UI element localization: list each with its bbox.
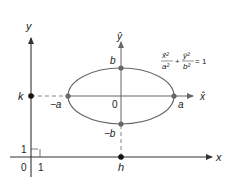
origin-label: 0	[21, 162, 27, 173]
unit-x-label: 1	[38, 162, 44, 173]
ellipse-diagram: y x x̂ ŷ 0 1 1 k h −a a b −b 0 x̂² a² + …	[0, 0, 225, 177]
a-label: a	[178, 99, 184, 110]
neg-a-label: −a	[50, 99, 62, 110]
equation-term2-denominator: b²	[183, 62, 190, 71]
h-label: h	[118, 161, 124, 173]
equation-term1-denominator: a²	[162, 62, 169, 71]
center-label: 0	[112, 99, 118, 110]
neg-b-label: −b	[104, 128, 116, 139]
vertex-a	[171, 93, 176, 98]
equation-rhs: = 1	[195, 57, 207, 66]
b-label: b	[110, 55, 116, 66]
ellipse-equation: x̂² a² + ŷ² b² = 1	[161, 51, 207, 71]
equation-term2-numerator: ŷ²	[182, 51, 190, 60]
x-axis-label: x	[215, 151, 222, 163]
y-axis-label: y	[25, 20, 33, 32]
yhat-axis-label: ŷ	[116, 31, 123, 42]
vertex-neg-a	[65, 93, 70, 98]
vertex-neg-b	[118, 121, 123, 126]
equation-plus: +	[175, 57, 180, 66]
vertex-b	[118, 65, 123, 70]
xhat-axis-label: x̂	[199, 91, 206, 102]
k-label: k	[18, 90, 24, 102]
equation-term1-numerator: x̂²	[161, 51, 169, 60]
point-k	[28, 93, 34, 99]
point-h	[118, 154, 124, 160]
unit-y-label: 1	[21, 144, 27, 155]
